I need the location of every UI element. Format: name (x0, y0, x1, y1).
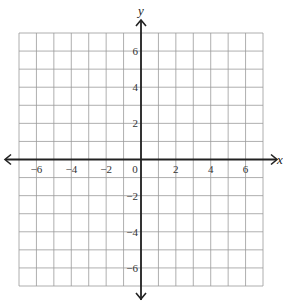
y-axis-label: y (136, 3, 144, 18)
y-tick-label: 6 (133, 45, 139, 57)
x-tick-label: 2 (173, 163, 179, 175)
x-tick-label: −6 (31, 163, 43, 175)
y-tick-label: 4 (133, 81, 139, 93)
y-tick-label: −2 (126, 190, 138, 202)
y-tick-label: −6 (126, 262, 138, 274)
x-tick-label: 4 (208, 163, 214, 175)
x-axis-label: x (276, 152, 283, 167)
x-tick-label: 6 (243, 163, 249, 175)
y-tick-label: 2 (133, 117, 139, 129)
x-tick-label: −2 (100, 163, 112, 175)
y-tick-label: −4 (126, 226, 138, 238)
coordinate-plane: −6−4−20246642−2−4−6 x y (0, 0, 283, 304)
axes (5, 20, 277, 300)
x-tick-label: −4 (65, 163, 77, 175)
x-tick-label: 0 (132, 163, 138, 175)
